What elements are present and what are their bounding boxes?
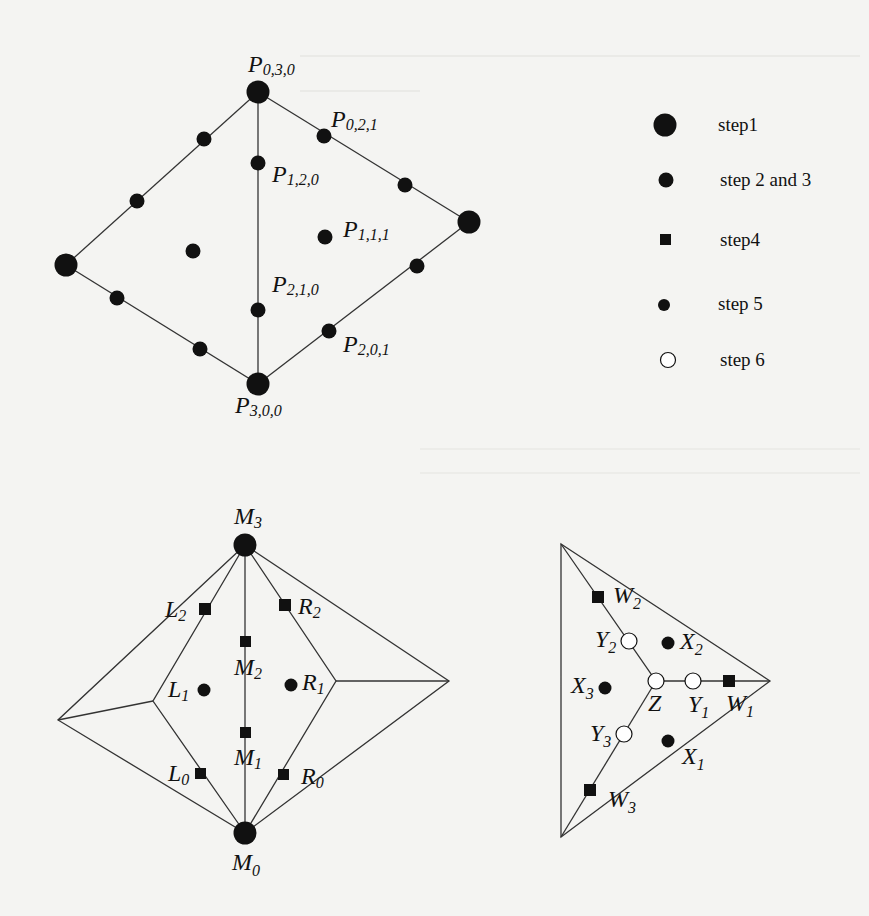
small-filled-circle-icon: [658, 299, 670, 311]
point-left-lower-1: [110, 291, 125, 306]
point-left-interior: [186, 244, 201, 259]
point-p201: [322, 324, 337, 339]
point-L0: [195, 768, 206, 779]
point-Y2: [621, 633, 637, 649]
point-M2: [240, 636, 251, 647]
point-left-upper-1: [197, 132, 212, 147]
point-M3: [234, 534, 257, 557]
point-X1: [662, 735, 675, 748]
point-W1: [723, 675, 735, 687]
legend-label: step 6: [720, 349, 765, 370]
large-filled-circle-icon: [654, 114, 677, 137]
legend-label: step4: [720, 229, 761, 250]
point-p210: [251, 303, 266, 318]
point-W3: [584, 784, 596, 796]
point-left-corner: [55, 254, 78, 277]
label-Z: Z: [648, 690, 662, 716]
point-p300: [247, 373, 270, 396]
point-R2: [279, 599, 291, 611]
open-circle-icon: [661, 353, 676, 368]
point-W2: [592, 591, 604, 603]
legend-label: step 2 and 3: [720, 169, 811, 190]
legend-label: step1: [718, 114, 758, 135]
point-Z: [648, 673, 664, 689]
legend-label: step 5: [718, 293, 763, 314]
point-left-upper-2: [130, 194, 145, 209]
filled-circle-icon: [659, 173, 674, 188]
point-L1: [198, 684, 211, 697]
point-X2: [662, 637, 675, 650]
figure-canvas: P0,3,0 P0,2,1 P1,2,0 P1,1,1 P2,1,0 P2,0,…: [0, 0, 869, 916]
point-R1: [285, 679, 298, 692]
page-background: [0, 0, 869, 916]
point-left-lower-2: [193, 342, 208, 357]
point-X3: [599, 682, 612, 695]
point-right-lower-1: [410, 259, 425, 274]
point-p120: [251, 156, 266, 171]
point-L2: [199, 603, 211, 615]
point-right-corner: [458, 211, 481, 234]
point-Y1: [685, 673, 701, 689]
filled-square-icon: [660, 234, 671, 245]
point-Y3: [616, 726, 632, 742]
point-right-upper-2: [398, 178, 413, 193]
point-R0: [278, 769, 289, 780]
point-M1: [240, 727, 251, 738]
point-p030: [247, 81, 270, 104]
point-M0: [234, 822, 257, 845]
point-p111: [318, 230, 333, 245]
point-p021: [317, 129, 332, 144]
